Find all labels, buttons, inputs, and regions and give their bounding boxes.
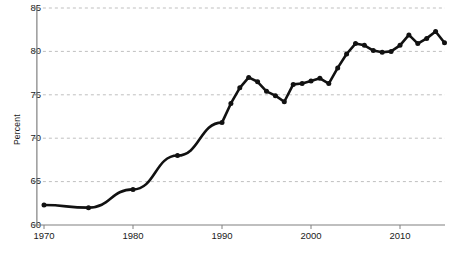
tick-marks-group — [33, 8, 400, 229]
data-point — [406, 32, 411, 37]
data-point — [398, 43, 403, 48]
data-point — [175, 153, 180, 158]
data-point — [362, 43, 367, 48]
data-point — [380, 50, 385, 55]
data-point — [246, 75, 251, 80]
data-point — [291, 82, 296, 87]
data-point — [326, 81, 331, 86]
data-point-markers — [42, 29, 448, 210]
data-point — [264, 89, 269, 94]
data-point — [86, 205, 91, 210]
data-point — [344, 52, 349, 57]
data-point — [424, 36, 429, 41]
data-point — [353, 41, 358, 46]
plot-area — [0, 0, 449, 260]
data-point — [442, 40, 447, 45]
data-point — [228, 101, 233, 106]
data-point — [300, 81, 305, 86]
data-point — [415, 41, 420, 46]
data-point — [273, 93, 278, 98]
axis-lines-group — [37, 8, 445, 225]
data-point — [220, 120, 225, 125]
data-point — [255, 79, 260, 84]
data-point — [371, 48, 376, 53]
gridlines-group — [37, 8, 445, 182]
data-point — [335, 65, 340, 70]
data-point — [309, 78, 314, 83]
data-point — [282, 99, 287, 104]
data-point — [389, 49, 394, 54]
data-point — [237, 85, 242, 90]
data-point — [131, 187, 136, 192]
data-point — [317, 76, 322, 81]
data-point — [42, 203, 47, 208]
data-point — [433, 29, 438, 34]
line-chart: Percent 85 80 75 70 65 60 1970 1980 1990… — [0, 0, 449, 260]
